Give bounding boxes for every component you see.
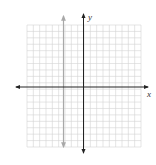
x-axis-label: x bbox=[146, 89, 151, 99]
coordinate-plane: y x bbox=[0, 0, 156, 165]
y-axis-label: y bbox=[87, 12, 92, 22]
